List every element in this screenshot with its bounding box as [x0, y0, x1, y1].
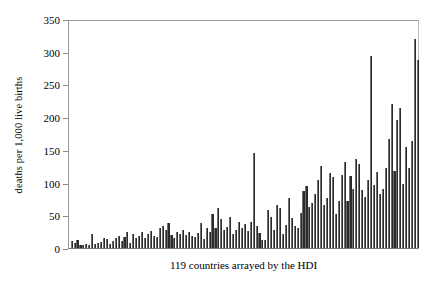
bar: [103, 238, 105, 248]
bar: [194, 237, 196, 248]
bar: [258, 233, 260, 248]
bar: [305, 186, 307, 248]
bar: [311, 203, 313, 248]
bar: [314, 194, 316, 248]
bar: [220, 219, 222, 248]
bar: [135, 238, 137, 248]
bar: [352, 189, 354, 248]
bar: [411, 141, 413, 248]
bar: [361, 190, 363, 248]
bar: [253, 153, 255, 248]
bar: [344, 162, 346, 248]
bar: [106, 239, 108, 248]
bar: [141, 232, 143, 248]
bar: [244, 224, 246, 248]
bar: [308, 207, 310, 248]
bar: [297, 228, 299, 248]
bar: [399, 108, 401, 248]
bar: [358, 164, 360, 248]
bar: [115, 238, 117, 248]
bar: [170, 235, 172, 248]
bar: [165, 230, 167, 248]
bar: [97, 243, 99, 248]
bar: [126, 232, 128, 248]
plot-area: [68, 20, 419, 249]
bar: [162, 226, 164, 248]
bar: [250, 222, 252, 248]
bar: [367, 180, 369, 248]
bar: [123, 237, 125, 248]
bar: [320, 166, 322, 248]
bar: [132, 234, 134, 248]
bar: [176, 232, 178, 248]
bar: [144, 238, 146, 248]
bar: [288, 198, 290, 248]
bar: [129, 243, 131, 248]
infant-mortality-bar-chart: deaths per 1,000 live births 05010015020…: [0, 0, 441, 282]
bar: [405, 147, 407, 248]
bar: [211, 214, 213, 248]
bar-series: [69, 21, 418, 248]
bar: [408, 168, 410, 248]
bar: [291, 218, 293, 248]
bar: [402, 184, 404, 248]
bar: [82, 245, 84, 248]
x-axis-label: 119 countries arrayed by the HDI: [68, 258, 419, 272]
bar: [94, 244, 96, 248]
bar: [264, 240, 266, 249]
bar: [173, 238, 175, 248]
bar: [214, 228, 216, 248]
bar: [217, 208, 219, 248]
bar: [182, 230, 184, 248]
bar: [238, 222, 240, 248]
bar: [323, 205, 325, 248]
bar: [414, 39, 416, 248]
bar: [85, 244, 87, 248]
bar: [121, 241, 123, 248]
bar: [153, 236, 155, 248]
bar: [223, 230, 225, 248]
bar: [329, 173, 331, 248]
bar: [167, 223, 169, 248]
bar: [138, 236, 140, 248]
bar: [159, 228, 161, 248]
bar: [209, 232, 211, 248]
bar: [188, 232, 190, 248]
bar: [302, 191, 304, 248]
bar: [185, 235, 187, 248]
bar: [179, 234, 181, 248]
y-tick-mark: [63, 249, 68, 250]
bar: [147, 234, 149, 248]
bar: [338, 201, 340, 248]
bar: [200, 223, 202, 248]
bar: [229, 217, 231, 248]
bar: [335, 214, 337, 248]
bar: [382, 189, 384, 248]
bar: [326, 198, 328, 248]
bar: [156, 237, 158, 248]
bar: [285, 225, 287, 248]
bar: [256, 226, 258, 248]
bar: [364, 197, 366, 248]
bar: [226, 227, 228, 248]
bar: [279, 208, 281, 248]
bar: [417, 60, 419, 248]
bar: [341, 175, 343, 248]
bar: [373, 185, 375, 248]
bar: [317, 180, 319, 248]
bar: [261, 240, 263, 248]
bar: [396, 120, 398, 248]
bar: [76, 240, 78, 249]
bar: [376, 172, 378, 248]
bar: [100, 242, 102, 248]
bar: [206, 228, 208, 248]
bar: [91, 234, 93, 248]
bar: [203, 239, 205, 248]
bar: [232, 234, 234, 248]
bar: [379, 194, 381, 248]
bar: [385, 168, 387, 248]
bar: [197, 233, 199, 248]
bar: [79, 245, 81, 248]
bar: [241, 228, 243, 248]
bar: [393, 171, 395, 248]
